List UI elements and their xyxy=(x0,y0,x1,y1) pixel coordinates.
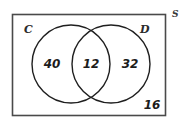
venn-diagram-svg: C D S 40 12 32 16 xyxy=(0,0,187,124)
venn-diagram-container: C D S 40 12 32 16 xyxy=(0,0,187,124)
region-value-outside: 16 xyxy=(144,98,161,112)
set-label-d: D xyxy=(139,23,150,36)
region-value-intersection: 12 xyxy=(83,57,100,71)
universal-set-label: S xyxy=(172,9,179,19)
region-value-c-only: 40 xyxy=(43,57,61,71)
region-value-d-only: 32 xyxy=(122,57,139,71)
set-label-c: C xyxy=(24,23,33,36)
